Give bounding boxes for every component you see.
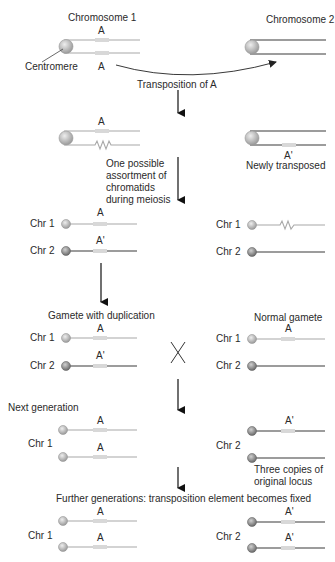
assortment-line-1: One possible	[106, 158, 164, 170]
further-gen-locus-a2: A	[97, 532, 104, 544]
step3-right-chr1-label: Chr 1	[216, 219, 240, 231]
chromosome-1-step2	[59, 129, 140, 149]
centromere-label: Centromere	[25, 61, 78, 73]
step2-locus-label: A	[98, 116, 105, 128]
next-generation-chr2	[248, 427, 326, 463]
gamete-duplication-title: Gamete with duplication	[48, 310, 155, 322]
locus-label-top: A	[98, 25, 105, 37]
cross-symbol	[171, 342, 185, 363]
next-gen-chr1-label: Chr 1	[28, 438, 52, 450]
further-generations-title: Further generations: transposition eleme…	[56, 493, 311, 505]
next-gen-locus-a2: A	[97, 442, 104, 454]
next-gen-chr2-label: Chr 2	[216, 440, 240, 452]
further-gen-locus-a3: A'	[285, 506, 294, 518]
chromosome-1-title: Chromosome 1	[68, 12, 136, 24]
normal-gamete-chr2-label: Chr 2	[216, 360, 240, 372]
next-gen-locus-a3: A'	[285, 415, 294, 427]
step3-left-chr2-label: Chr 2	[30, 245, 54, 257]
assortment-line-3: chromatids	[106, 182, 155, 194]
further-gen-locus-a1: A	[97, 506, 104, 518]
further-gen-chr1-label: Chr 1	[28, 530, 52, 542]
locus-label-bottom: A	[98, 61, 105, 73]
step3-left-locus2: A'	[96, 235, 105, 247]
gamete-dup-chr2-label: Chr 2	[30, 360, 54, 372]
gamete-dup-locus2: A'	[96, 350, 105, 362]
normal-gamete-chr1-label: Chr 1	[216, 333, 240, 345]
three-copies-line-2: original locus	[254, 476, 312, 488]
step3-right-chromosomes	[248, 221, 326, 257]
gamete-dup-locus1: A	[97, 323, 104, 335]
next-gen-locus-a1: A	[97, 415, 104, 427]
step3-left-chr1-label: Chr 1	[30, 218, 54, 230]
next-generation-title: Next generation	[8, 402, 79, 414]
three-copies-line-1: Three copies of	[254, 464, 323, 476]
assortment-line-2: assortment of	[106, 170, 167, 182]
step3-right-chr2-label: Chr 2	[216, 246, 240, 258]
transposition-label: Transposition of A	[137, 79, 217, 91]
normal-gamete-chromosomes	[248, 335, 326, 371]
step3-left-locus1: A	[97, 207, 104, 219]
gamete-dup-chr1-label: Chr 1	[30, 332, 54, 344]
transposition-arrow	[116, 62, 276, 75]
chromosome-1-top	[42, 38, 140, 62]
newly-transposed-label: Newly transposed	[246, 160, 325, 172]
normal-gamete-locus1: A	[285, 323, 292, 335]
further-gen-chr2-label: Chr 2	[216, 531, 240, 543]
chromosome-2-top	[245, 40, 326, 54]
further-gen-locus-a4: A'	[285, 532, 294, 544]
assortment-line-4: during meiosis	[106, 194, 170, 206]
chromosome-2-step2	[245, 131, 326, 147]
chromosome-2-title: Chromosome 2	[266, 14, 334, 26]
